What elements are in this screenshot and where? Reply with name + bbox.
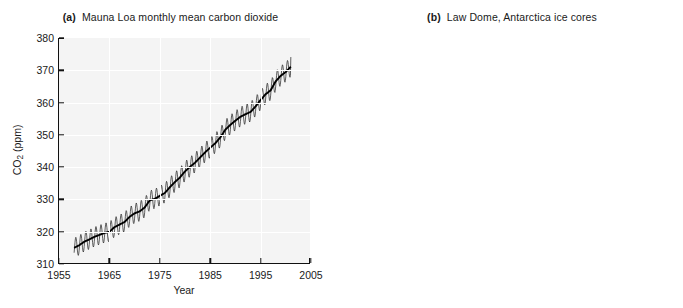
y-tick-mark-a	[59, 70, 64, 71]
y-tick-mark-a	[59, 231, 64, 232]
gridline-h	[59, 167, 310, 168]
y-tick-mark-a	[59, 166, 64, 167]
co2-figure: (a)Mauna Loa monthly mean carbon dioxide…	[0, 0, 683, 308]
y-tick-label-a: 340	[36, 161, 54, 173]
panel-a-tag: (a)	[63, 11, 76, 23]
x-tick-label-a: 1995	[249, 269, 272, 281]
panel-b-title-text: Law Dome, Antarctica ice cores	[447, 11, 597, 23]
gridline-v	[109, 38, 110, 263]
x-tick-mark-a	[260, 258, 261, 263]
x-tick-label-a: 1965	[98, 269, 121, 281]
x-tick-mark-a	[58, 258, 59, 263]
x-tick-label-a: 1985	[199, 269, 222, 281]
panel-b-law-dome: (b)Law Dome, Antarctica ice cores CO2 mi…	[341, 0, 683, 308]
y-tick-mark-a	[59, 102, 64, 103]
panel-a-mauna-loa: (a)Mauna Loa monthly mean carbon dioxide…	[0, 0, 341, 308]
gridline-h	[59, 199, 310, 200]
y-tick-label-a: 370	[36, 64, 54, 76]
panel-a-title: (a)Mauna Loa monthly mean carbon dioxide	[0, 11, 341, 23]
gridline-h	[59, 103, 310, 104]
gridline-v	[261, 38, 262, 263]
panel-b-title: (b)Law Dome, Antarctica ice cores	[341, 11, 683, 23]
y-tick-mark-a	[59, 134, 64, 135]
y-label-sub-a: 2	[16, 155, 25, 160]
gridline-h	[59, 135, 310, 136]
x-tick-label-a: 2005	[299, 269, 322, 281]
y-label-suffix-a: (ppm)	[11, 125, 23, 155]
x-tick-mark-a	[159, 258, 160, 263]
x-tick-mark-a	[310, 258, 311, 263]
panel-a-plot-area: 310 320 330 340 350 360 370 380 1955 196…	[58, 38, 310, 264]
y-tick-mark-a	[59, 199, 64, 200]
y-tick-label-a: 330	[36, 193, 54, 205]
gridline-v	[160, 38, 161, 263]
mauna-loa-curve	[59, 38, 311, 264]
y-tick-label-a: 380	[36, 32, 54, 44]
y-label-prefix-a: CO	[11, 159, 23, 175]
x-tick-mark-a	[209, 258, 210, 263]
y-tick-mark-a	[59, 263, 64, 264]
y-tick-label-a: 360	[36, 97, 54, 109]
y-tick-label-a: 320	[36, 226, 54, 238]
x-tick-mark-a	[109, 258, 110, 263]
panel-a-y-axis-label: CO2 (ppm)	[11, 90, 25, 210]
y-tick-label-a: 350	[36, 129, 54, 141]
x-tick-label-a: 1955	[47, 269, 70, 281]
gridline-v	[210, 38, 211, 263]
gridline-h	[59, 232, 310, 233]
gridline-h	[59, 70, 310, 71]
x-tick-label-a: 1975	[148, 269, 171, 281]
panel-a-x-axis-label: Year	[58, 284, 310, 296]
panel-a-title-text: Mauna Loa monthly mean carbon dioxide	[82, 11, 278, 23]
y-tick-mark-a	[59, 37, 64, 38]
panel-b-tag: (b)	[427, 11, 441, 23]
